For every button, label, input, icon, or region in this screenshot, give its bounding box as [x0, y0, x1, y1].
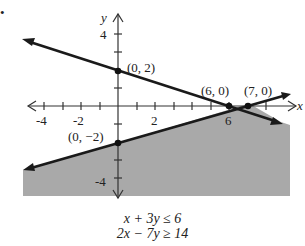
label-0-2: (0, 2) — [127, 60, 155, 75]
inequality-1: x + 3y ≤ 6 — [0, 211, 305, 226]
graph: • y x 4 -4 -4 -2 2 6 (0, 2) (0, −2) (6, … — [0, 0, 305, 246]
y-tick-4: 4 — [100, 27, 107, 42]
x-tick-2: 2 — [151, 113, 158, 128]
label-7-0: (7, 0) — [244, 83, 272, 98]
point-0-2 — [115, 68, 122, 75]
label-6-0: (6, 0) — [201, 83, 229, 98]
line-x-plus-3y-eq-6 — [22, 38, 283, 125]
inequality-2: 2x − 7y ≥ 14 — [0, 226, 305, 241]
x-tick-neg2: -2 — [73, 113, 84, 128]
problem-marker: • — [0, 5, 5, 20]
x-axis-label: x — [296, 98, 303, 113]
y-tick-neg4: -4 — [95, 174, 106, 189]
x-tick-neg4: -4 — [36, 113, 47, 128]
y-axis-label: y — [99, 10, 107, 25]
point-0-neg2 — [115, 140, 122, 147]
x-tick-6: 6 — [225, 113, 232, 128]
label-0-neg2: (0, −2) — [68, 129, 104, 144]
point-7-0 — [245, 103, 252, 110]
point-6-0 — [226, 103, 233, 110]
